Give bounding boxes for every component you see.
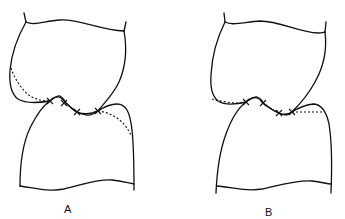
- upper-tooth-b: [211, 13, 326, 115]
- lower-tooth-b-cervical-line: [217, 181, 331, 190]
- panel-a-label: A: [64, 203, 71, 215]
- upper-tooth-b-root-tick-left: [224, 13, 225, 22]
- upper-tooth-b-root-tick-right: [325, 22, 326, 32]
- panel-a: [10, 13, 134, 190]
- upper-tooth-a-crown-outline: [10, 22, 126, 115]
- upper-tooth-a-root-tick-right: [124, 22, 126, 31]
- panel-b-label: B: [265, 206, 272, 218]
- upper-tooth-a-cervical-line: [26, 20, 124, 31]
- upper-tooth-b-cervical-line: [225, 21, 325, 33]
- x-mark-icon: [289, 109, 295, 115]
- upper-tooth-a-dotted-contour: [11, 68, 50, 101]
- x-mark-icon: [276, 110, 282, 116]
- lower-tooth-a: [20, 97, 134, 190]
- lower-tooth-a-cervical-line: [20, 180, 134, 190]
- lower-tooth-b: [216, 98, 332, 193]
- panel-b: [211, 13, 332, 193]
- lower-tooth-b-crown-outline: [216, 98, 332, 193]
- upper-tooth-b-crown-outline: [211, 22, 326, 115]
- lower-tooth-a-crown-outline: [20, 97, 134, 190]
- occlusion-diagram: [0, 0, 345, 219]
- upper-tooth-a: [10, 13, 126, 115]
- x-mark-icon: [260, 100, 266, 106]
- upper-tooth-a-root-tick-left: [24, 13, 26, 22]
- lower-tooth-a-dotted-contour: [98, 111, 131, 136]
- x-mark-icon: [74, 109, 80, 115]
